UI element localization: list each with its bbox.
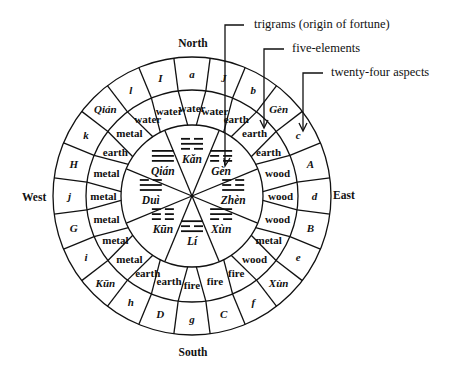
- aspect-divider: [290, 143, 320, 156]
- element-label: wood: [265, 213, 290, 225]
- aspect-divider: [290, 237, 320, 250]
- aspect-divider: [206, 301, 210, 334]
- aspect-label: b: [251, 84, 257, 96]
- trigram-5: Kūn: [152, 209, 174, 235]
- aspect-label: l: [129, 84, 133, 96]
- trigram-2: Zhèn: [220, 180, 246, 206]
- element-label: earth: [135, 267, 160, 279]
- direction-south: South: [179, 346, 208, 358]
- trigram-name: Kūn: [152, 223, 173, 235]
- aspect-label: Qián: [94, 103, 117, 115]
- annotation-twenty-four-aspects: twenty-four aspects: [331, 65, 429, 79]
- trigram-name: Kǎn: [181, 153, 202, 165]
- aspect-label: f: [251, 296, 256, 308]
- aspect-divider: [233, 68, 246, 98]
- aspect-label: D: [155, 308, 164, 320]
- trigram-name: Lí: [186, 235, 198, 247]
- trigram-name: Zhèn: [220, 194, 246, 206]
- aspect-label: c: [296, 129, 301, 141]
- aspect-label: h: [128, 296, 134, 308]
- aspect-label: C: [220, 308, 228, 320]
- aspect-divider: [54, 178, 87, 182]
- element-label: metal: [102, 234, 128, 246]
- element-label: metal: [90, 190, 116, 202]
- feng-shui-compass-diagram: aJbGèncAdBeXùnfCgDhKūniGjHkQiánlIwaterwa…: [0, 0, 457, 368]
- aspect-label: d: [312, 190, 318, 202]
- trigram-0: Kǎn: [181, 139, 203, 165]
- element-label: metal: [116, 127, 142, 139]
- aspect-divider: [233, 294, 246, 324]
- aspect-divider: [64, 237, 94, 250]
- trigram-name: Gèn: [211, 165, 231, 177]
- aspect-divider: [174, 301, 178, 334]
- aspect-divider: [139, 294, 152, 324]
- aspect-label: B: [306, 222, 314, 234]
- aspect-divider: [64, 143, 94, 156]
- aspect-label: i: [84, 251, 88, 263]
- trigram-name: Duì: [141, 194, 160, 206]
- element-label: earth: [157, 275, 182, 287]
- element-label: metal: [116, 253, 142, 265]
- aspect-label: J: [220, 72, 227, 84]
- aspect-label: k: [83, 129, 89, 141]
- aspect-label: Xùn: [268, 277, 289, 289]
- element-label: fire: [228, 267, 244, 279]
- aspect-label: G: [70, 222, 78, 234]
- element-label: wood: [268, 190, 293, 202]
- trigram-6: Duì: [140, 180, 162, 206]
- aspect-label: A: [306, 158, 314, 170]
- aspect-divider: [54, 210, 87, 214]
- direction-north: North: [178, 37, 208, 49]
- element-label: metal: [93, 213, 119, 225]
- aspect-divider: [297, 178, 330, 182]
- aspect-label: Kūn: [95, 277, 116, 289]
- element-label: earth: [256, 146, 281, 158]
- annotation-five-elements: five-elements: [292, 41, 360, 55]
- aspect-divider: [297, 210, 330, 214]
- aspect-label: H: [68, 158, 78, 170]
- aspect-divider: [174, 58, 178, 91]
- element-label: metal: [93, 167, 119, 179]
- annotation-trigrams: trigrams (origin of fortune): [254, 17, 390, 31]
- aspect-label: Gèn: [269, 103, 288, 115]
- trigram-3: Xùn: [210, 209, 232, 235]
- trigram-name: Qián: [151, 165, 175, 177]
- trigram-name: Xùn: [210, 223, 231, 235]
- aspect-label: I: [157, 72, 163, 84]
- direction-east: East: [333, 189, 355, 201]
- direction-west: West: [22, 191, 46, 203]
- element-label: earth: [103, 146, 128, 158]
- aspect-label: a: [189, 68, 195, 80]
- trigram-1: Gèn: [210, 151, 232, 177]
- trigram-7: Qián: [151, 151, 175, 177]
- element-label: fire: [207, 275, 223, 287]
- aspect-label: e: [296, 251, 301, 263]
- trigram-4: Lí: [181, 221, 203, 247]
- element-label: wood: [242, 253, 267, 265]
- aspect-label: j: [66, 190, 72, 202]
- element-label: fire: [184, 279, 200, 291]
- element-label: wood: [265, 167, 290, 179]
- element-label: earth: [224, 113, 249, 125]
- arrow-twenty-four-aspects: [303, 73, 323, 130]
- aspect-label: g: [188, 313, 195, 325]
- aspect-divider: [139, 68, 152, 98]
- element-label: earth: [242, 127, 267, 139]
- element-label: metal: [256, 234, 282, 246]
- element-label: water: [156, 105, 183, 117]
- aspect-divider: [206, 58, 210, 91]
